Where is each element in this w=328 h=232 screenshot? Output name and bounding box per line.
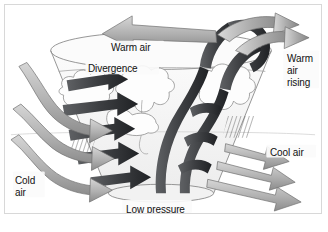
label-cool-air: Cool air: [270, 147, 304, 159]
label-low-pressure: Low pressure: [126, 204, 185, 214]
label-divergence: Divergence: [88, 63, 138, 75]
label-cold-air: Cold air: [15, 175, 35, 199]
label-warm-air-rising: Warm air rising: [287, 53, 313, 89]
cyclone-diagram-illustration: [5, 5, 321, 213]
precipitation-hatch-right: [223, 116, 256, 138]
diagram-frame: Warm air Divergence Warm air rising Cool…: [4, 4, 322, 214]
label-warm-air: Warm air: [111, 42, 150, 54]
